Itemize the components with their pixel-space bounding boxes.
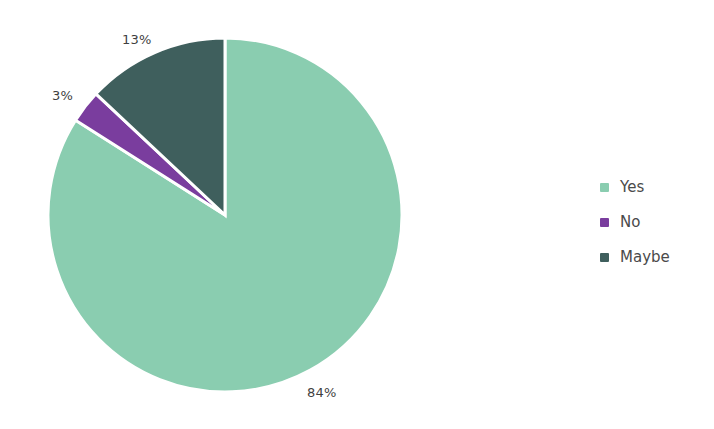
slice-value-label-no: 3%: [52, 89, 73, 102]
pie-chart-figure: 84% 3% 13% Yes No Maybe: [0, 0, 714, 429]
slice-value-label-yes: 84%: [307, 386, 337, 399]
chart-legend: Yes No Maybe: [600, 170, 710, 275]
legend-label-maybe: Maybe: [620, 250, 670, 265]
legend-swatch-icon-no: [600, 218, 609, 227]
legend-swatch-icon-maybe: [600, 253, 609, 262]
legend-item-no[interactable]: No: [600, 205, 710, 240]
legend-label-no: No: [620, 215, 640, 230]
legend-swatch-icon-yes: [600, 183, 609, 192]
pie-slices-group: [48, 38, 402, 392]
legend-item-yes[interactable]: Yes: [600, 170, 710, 205]
legend-item-maybe[interactable]: Maybe: [600, 240, 710, 275]
slice-value-label-maybe: 13%: [122, 33, 152, 46]
legend-label-yes: Yes: [620, 180, 644, 195]
